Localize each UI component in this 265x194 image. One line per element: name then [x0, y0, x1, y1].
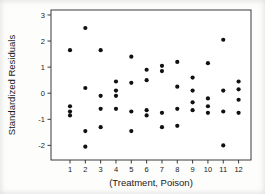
data-point	[175, 124, 179, 128]
x-tick-label: 3	[99, 165, 103, 174]
data-point	[206, 96, 210, 100]
data-point	[145, 68, 149, 72]
data-point	[129, 109, 133, 113]
x-tick-label: 4	[114, 165, 118, 174]
x-tick-label: 9	[191, 165, 195, 174]
x-tick-label: 2	[83, 165, 87, 174]
x-tick-label: 10	[204, 165, 212, 174]
data-point	[114, 107, 118, 111]
data-point	[236, 98, 240, 102]
data-point	[221, 89, 225, 93]
data-point	[221, 38, 225, 42]
data-point	[114, 94, 118, 98]
data-point	[175, 60, 179, 64]
data-point	[160, 111, 164, 115]
y-tick-label: 1	[41, 63, 45, 72]
x-tick-label: 7	[160, 165, 164, 174]
data-point	[160, 125, 164, 129]
data-point	[160, 64, 164, 68]
residual-scatter-figure: 1234567891011123210-1-2 (Treatment, Pois…	[0, 0, 265, 194]
data-point	[191, 75, 195, 79]
data-point	[114, 89, 118, 93]
data-point	[191, 100, 195, 104]
data-point	[191, 89, 195, 93]
data-point	[99, 125, 103, 129]
data-point	[191, 108, 195, 112]
data-point	[114, 79, 118, 83]
data-point	[83, 86, 87, 90]
data-point	[206, 61, 210, 65]
y-tick-label: 2	[41, 37, 45, 46]
x-tick-label: 6	[145, 165, 149, 174]
data-point	[129, 129, 133, 133]
x-tick-label: 1	[68, 165, 72, 174]
data-point	[83, 145, 87, 149]
plot-frame	[51, 10, 251, 160]
data-point	[221, 109, 225, 113]
data-point	[68, 113, 72, 117]
data-point	[206, 111, 210, 115]
y-tick-label: 3	[41, 11, 45, 20]
data-point	[236, 79, 240, 83]
y-tick-label: -1	[38, 115, 45, 124]
data-point	[236, 87, 240, 91]
x-tick-label: 11	[219, 165, 227, 174]
data-point	[145, 113, 149, 117]
data-point	[175, 85, 179, 89]
data-point	[145, 108, 149, 112]
data-point	[236, 111, 240, 115]
x-axis-title: (Treatment, Poison)	[109, 177, 193, 188]
data-point	[99, 48, 103, 52]
data-point	[129, 81, 133, 85]
data-point	[175, 107, 179, 111]
x-tick-label: 8	[175, 165, 179, 174]
y-axis-title: Standardized Residuals	[6, 35, 17, 136]
x-tick-label: 12	[234, 165, 242, 174]
data-point	[68, 109, 72, 113]
x-tick-label: 5	[129, 165, 133, 174]
data-point	[68, 48, 72, 52]
y-tick-label: -2	[38, 141, 45, 150]
y-tick-label: 0	[41, 89, 45, 98]
data-point	[99, 94, 103, 98]
data-point	[221, 143, 225, 147]
data-point	[68, 104, 72, 108]
data-point	[145, 78, 149, 82]
data-point	[206, 104, 210, 108]
scatter-plot: 1234567891011123210-1-2 (Treatment, Pois…	[0, 0, 265, 194]
data-point	[99, 107, 103, 111]
data-point	[160, 69, 164, 73]
data-point	[83, 129, 87, 133]
data-point	[129, 55, 133, 59]
data-point	[83, 26, 87, 30]
